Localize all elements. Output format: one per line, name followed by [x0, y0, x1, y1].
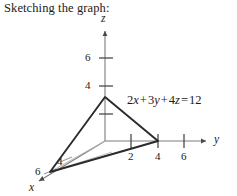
equation-var-y: y — [154, 93, 160, 107]
y-tick-label-4: 4 — [155, 150, 161, 162]
equation-plus-1: + — [139, 93, 148, 107]
plane-triangle — [50, 97, 158, 172]
y-axis-label: y — [214, 133, 219, 145]
equation-plus-2: + — [160, 93, 169, 107]
z-axis — [99, 31, 113, 141]
equation-rhs: 12 — [189, 93, 202, 107]
x-axis-label: x — [29, 181, 34, 193]
plane-equation-label: 2x+3y+4z=12 — [127, 93, 201, 108]
y-tick-label-2: 2 — [128, 150, 134, 162]
z-tick-label-6: 6 — [85, 51, 91, 63]
x-tick-label-4: 4 — [57, 155, 63, 167]
z-axis-label: z — [101, 12, 105, 24]
x-tick-label-6: 6 — [35, 165, 41, 177]
y-tick-label-6: 6 — [181, 150, 187, 162]
z-tick-label-4: 4 — [85, 79, 91, 91]
equation-equals: = — [180, 93, 189, 107]
figure-root: Sketching the graph: — [0, 0, 237, 196]
equation-var-x: x — [133, 93, 139, 107]
